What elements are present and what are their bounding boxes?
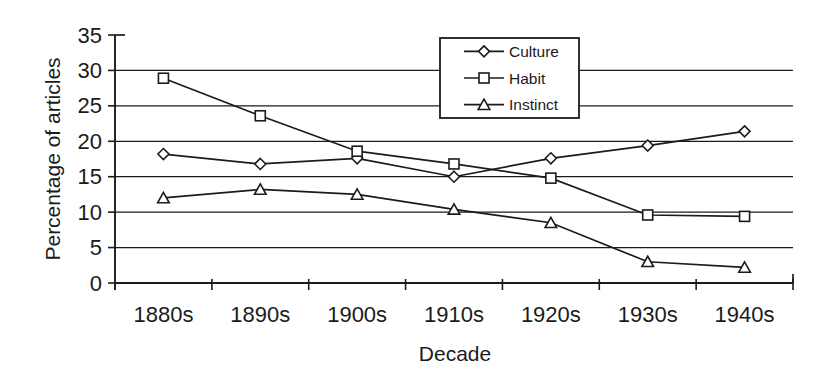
legend-label-culture: Culture (509, 43, 559, 60)
y-tick-label-15: 15 (78, 164, 102, 189)
x-axis-title: Decade (419, 342, 491, 366)
marker-culture-1880s (158, 149, 169, 160)
legend-label-habit: Habit (509, 70, 546, 87)
marker-culture-1890s (255, 158, 266, 169)
marker-culture-1910s (449, 171, 460, 182)
x-category-label-1880s: 1880s (133, 302, 193, 327)
x-category-label-1920s: 1920s (521, 302, 581, 327)
y-tick-label-35: 35 (78, 23, 102, 48)
marker-culture-1920s (545, 153, 556, 164)
marker-habit-1940s (740, 211, 750, 221)
series-line-instinct (163, 189, 744, 267)
marker-habit-1910s (449, 159, 459, 169)
y-tick-label-30: 30 (78, 58, 102, 83)
legend: CultureHabitInstinct (440, 38, 579, 118)
legend-label-instinct: Instinct (509, 96, 559, 113)
marker-culture-1940s (739, 126, 750, 137)
marker-habit-1900s (352, 146, 362, 156)
marker-habit-1920s (546, 173, 556, 183)
marker-habit-1930s (643, 210, 653, 220)
chart-canvas: 051015202530351880s1890s1900s1910s1920s1… (0, 0, 833, 380)
series-line-culture (163, 131, 744, 176)
x-category-label-1930s: 1930s (618, 302, 678, 327)
y-tick-label-25: 25 (78, 93, 102, 118)
series-instinct (158, 184, 751, 272)
x-category-label-1940s: 1940s (715, 302, 775, 327)
y-tick-label-5: 5 (90, 235, 102, 260)
marker-habit-1890s (255, 111, 265, 121)
marker-habit-1880s (158, 73, 168, 83)
x-category-label-1890s: 1890s (230, 302, 290, 327)
line-chart-figure: 051015202530351880s1890s1900s1910s1920s1… (0, 0, 833, 380)
y-tick-label-20: 20 (78, 129, 102, 154)
x-category-label-1910s: 1910s (424, 302, 484, 327)
series-culture (158, 126, 750, 182)
legend-square-icon (479, 73, 489, 83)
y-tick-label-10: 10 (78, 200, 102, 225)
x-category-label-1900s: 1900s (327, 302, 387, 327)
y-axis-title: Percentage of articles (41, 57, 65, 260)
y-tick-label-0: 0 (90, 271, 102, 296)
